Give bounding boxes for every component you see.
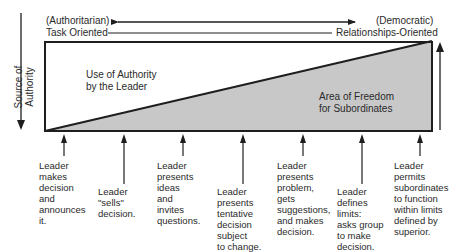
relationships-oriented-label: Relationships-Oriented [336,27,438,39]
behavior-label-defines-limits: Leader defines limits: asks group to mak… [337,186,383,252]
behavior-label-tells: Leader makes decision and announces it. [39,160,85,226]
behavior-arrows [61,134,423,184]
behavior-label-tentative-decision: Leader presents tentative decision subje… [217,186,261,252]
task-oriented-label: Task Oriented [46,27,108,39]
authoritarian-label: (Authoritarian) [46,15,109,27]
leader-authority-label: Use of Authority by the Leader [86,69,157,92]
behavior-label-presents-ideas: Leader presents ideas and invites questi… [157,160,200,226]
behavior-label-permits-function: Leader permits subordinates to function … [394,160,448,237]
freedom-arrow [436,42,444,130]
subordinate-freedom-label: Area of Freedom for Subordinates [319,91,394,114]
behavior-label-presents-problem: Leader presents problem, gets suggestion… [277,160,330,237]
source-of-authority-label: Source of Authority [14,62,35,112]
democratic-label: (Democratic) [376,15,433,27]
behavior-label-sells: Leader "sells" decision. [98,186,136,219]
